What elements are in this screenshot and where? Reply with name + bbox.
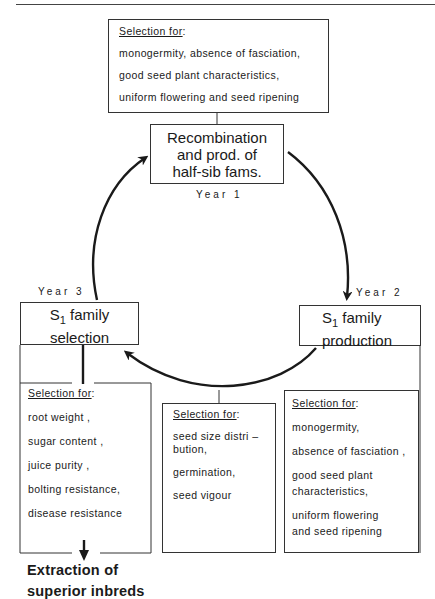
year3-label: Year 3 — [38, 286, 85, 297]
selection-item: germination, — [173, 466, 275, 479]
top-selection-box: Selection for: monogermity, absence of f… — [108, 19, 329, 113]
selection-item: uniform flowering — [292, 509, 418, 522]
stage-label-line: half-sib fams. — [151, 163, 283, 180]
outcome-label: Extraction of superior inbreds — [27, 560, 145, 599]
stage-box-year3: S1 family selection — [20, 302, 139, 345]
stage-label-line: production — [322, 332, 420, 349]
selection-item: characteristics, — [292, 485, 418, 498]
selection-item: root weight , — [28, 411, 148, 424]
selection-item: seed vigour — [173, 489, 275, 502]
selection-item: and seed ripening — [292, 525, 418, 538]
stage-box-year1: Recombination and prod. of half-sib fams… — [150, 124, 284, 184]
selection-item: absence of fasciation , — [292, 445, 418, 458]
stage-label-line: S1 family — [21, 306, 138, 329]
selection-heading: Selection for: — [173, 408, 240, 420]
selection-heading: Selection for: — [292, 397, 359, 409]
selection-heading: Selection for: — [119, 25, 186, 37]
selection-item: bution, — [173, 443, 275, 456]
selection-item: monogermity, — [292, 421, 418, 434]
stage-label-line: Recombination — [151, 129, 283, 146]
selection-item: bolting resistance, — [28, 483, 148, 496]
selection-item: disease resistance — [28, 507, 148, 520]
year2-label: Year 2 — [356, 287, 403, 298]
stage-label-line: selection — [21, 329, 138, 346]
selection-item: monogermity, absence of fasciation, — [119, 47, 328, 60]
year1-label: Year 1 — [196, 189, 243, 200]
arrow-year2-to-year3 — [127, 348, 316, 386]
outcome-line: Extraction of — [27, 560, 145, 581]
middle-selection-box: Selection for: seed size distri – bution… — [162, 403, 276, 553]
arrow-year3-to-year1 — [93, 158, 145, 300]
left-selection-box: Selection for: root weight , sugar conte… — [28, 387, 148, 520]
selection-item: uniform flowering and seed ripening — [119, 91, 328, 104]
selection-item: seed size distri – — [173, 430, 275, 443]
selection-item: good seed plant characteristics, — [119, 69, 328, 82]
selection-item: good seed plant — [292, 469, 418, 482]
selection-item: juice purity , — [28, 459, 148, 472]
stage-box-year2: S1 family production — [299, 305, 421, 346]
arrow-year1-to-year2 — [288, 152, 348, 297]
selection-heading: Selection for: — [28, 387, 95, 399]
stage-label-line: and prod. of — [151, 146, 283, 163]
stage-label-line: S1 family — [322, 309, 420, 332]
outcome-line: superior inbreds — [27, 581, 145, 599]
right-selection-box: Selection for: monogermity, absence of f… — [284, 390, 419, 553]
selection-item: sugar content , — [28, 435, 148, 448]
